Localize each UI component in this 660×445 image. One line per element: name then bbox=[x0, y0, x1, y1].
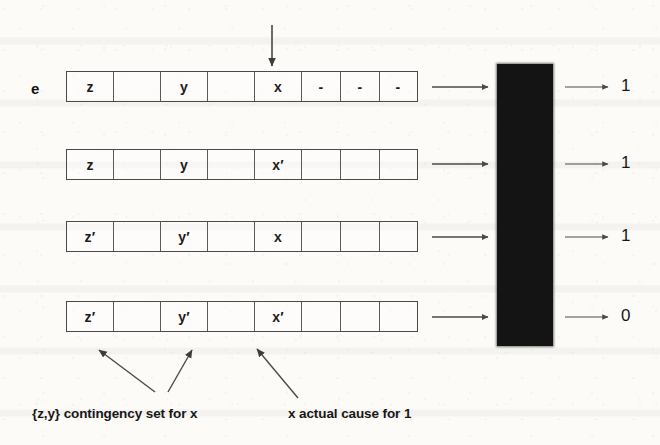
cell bbox=[341, 302, 380, 331]
cell: - bbox=[302, 72, 341, 101]
table-row: z y x - - - bbox=[66, 71, 418, 102]
cell: y bbox=[161, 72, 208, 101]
black-box-mechanism bbox=[497, 64, 553, 346]
cell bbox=[208, 150, 255, 179]
cell: y′ bbox=[161, 302, 208, 331]
cell bbox=[302, 302, 341, 331]
cell bbox=[114, 150, 161, 179]
cell: y bbox=[161, 150, 208, 179]
cell bbox=[208, 72, 255, 101]
actual-cause-caption: x actual cause for 1 bbox=[288, 406, 411, 421]
output-value: 0 bbox=[621, 306, 630, 326]
evidence-label: e bbox=[31, 80, 39, 97]
cell bbox=[341, 222, 380, 251]
cell: - bbox=[341, 72, 380, 101]
cell: x′ bbox=[255, 302, 302, 331]
cell bbox=[380, 302, 416, 331]
cell: z′ bbox=[67, 302, 114, 331]
output-value: 1 bbox=[621, 153, 630, 173]
table-row: z′ y′ x bbox=[66, 221, 418, 252]
cell bbox=[380, 150, 416, 179]
cell: - bbox=[380, 72, 416, 101]
contingency-set-caption: {z,y} contingency set for x bbox=[32, 406, 197, 421]
cell bbox=[302, 222, 341, 251]
cell bbox=[341, 150, 380, 179]
cell bbox=[114, 222, 161, 251]
cell: z′ bbox=[67, 222, 114, 251]
cell bbox=[208, 222, 255, 251]
cell: x bbox=[255, 222, 302, 251]
cell: z bbox=[67, 72, 114, 101]
cell bbox=[380, 222, 416, 251]
output-value: 1 bbox=[621, 76, 630, 96]
callout-arrow-z bbox=[99, 350, 155, 392]
cell bbox=[114, 302, 161, 331]
cell: y′ bbox=[161, 222, 208, 251]
cell bbox=[208, 302, 255, 331]
cell bbox=[302, 150, 341, 179]
figure-canvas: e z y x - - - z y x′ z′ y′ x z′ y′ bbox=[0, 0, 660, 445]
callout-arrow-y bbox=[168, 350, 192, 392]
cell bbox=[114, 72, 161, 101]
cell: z bbox=[67, 150, 114, 179]
cell: x bbox=[255, 72, 302, 101]
table-row: z′ y′ x′ bbox=[66, 301, 418, 332]
callout-arrow-x bbox=[257, 349, 298, 398]
cell: x′ bbox=[255, 150, 302, 179]
output-value: 1 bbox=[621, 226, 630, 246]
table-row: z y x′ bbox=[66, 149, 418, 180]
